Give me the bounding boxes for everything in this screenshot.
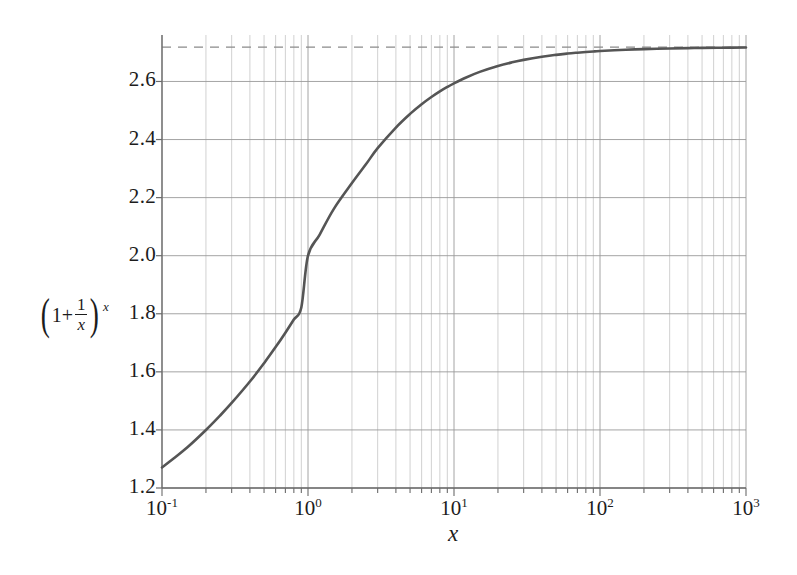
fraction-numerator: 1 xyxy=(75,296,88,313)
x-axis-title: x xyxy=(448,521,458,547)
exponent-x: x xyxy=(103,300,109,313)
open-paren: ( xyxy=(41,296,50,334)
one-plus-term: 1+ xyxy=(52,305,73,325)
x-axis-tick-labels: 10-1100101102103 xyxy=(0,0,797,575)
fraction-one-over-x: 1 x xyxy=(75,296,88,334)
x-axis-tick-label: 101 xyxy=(440,496,468,521)
y-axis-title: ( 1+ 1 x ) x xyxy=(38,296,109,334)
x-axis-tick-label: 100 xyxy=(294,496,322,521)
x-axis-tick-label: 102 xyxy=(586,496,614,521)
close-paren: ) xyxy=(90,296,99,334)
figure-chart: 1.21.41.61.82.02.22.42.6 10-110010110210… xyxy=(0,0,797,575)
y-axis-title-expression: 1+ 1 x xyxy=(52,296,89,334)
fraction-denominator: x xyxy=(75,316,87,333)
x-axis-tick-label: 10-1 xyxy=(146,496,178,521)
x-axis-tick-label: 103 xyxy=(732,496,760,521)
